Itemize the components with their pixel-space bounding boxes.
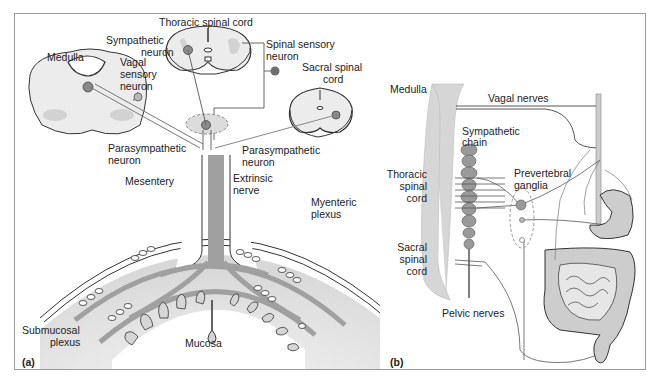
label-myenteric-plexus-2: plexus — [311, 209, 341, 220]
label-vagal-sensory-neuron: Vagal — [120, 57, 146, 68]
label-spinal-sensory-neuron-2: neuron — [266, 51, 299, 62]
label-vagal-nerves: Vagal nerves — [488, 93, 549, 104]
label-b-medulla: Medulla — [390, 84, 427, 95]
label-submucosal-plexus: Submucosal — [22, 325, 80, 336]
label-parasympathetic-neuron-right: Parasympathetic — [242, 145, 320, 156]
label-parasympathetic-neuron-right-2: neuron — [242, 157, 275, 168]
label-sacral-spinal-cord-b-2: spinal — [380, 254, 427, 265]
label-thoracic-spinal-cord: Thoracic spinal cord — [159, 17, 253, 28]
panel-b-tag: (b) — [390, 356, 403, 368]
label-parasympathetic-neuron-left: Parasympathetic — [108, 143, 186, 154]
label-sympathetic-neuron: Sympathetic — [106, 35, 164, 46]
label-vagal-sensory-neuron-2: sensory — [120, 69, 157, 80]
label-sacral-spinal-cord-2: cord — [323, 74, 343, 85]
label-parasympathetic-neuron-left-2: neuron — [108, 155, 141, 166]
label-submucosal-plexus-2: plexus — [50, 337, 80, 348]
label-thoracic-spinal-cord-b: Thoracic — [380, 169, 427, 180]
label-extrinsic-nerve-2: nerve — [233, 185, 259, 196]
label-prevertebral-ganglia: Prevertebral — [514, 168, 571, 179]
label-thoracic-spinal-cord-b-3: cord — [380, 193, 427, 204]
label-sacral-spinal-cord-b: Sacral — [380, 242, 427, 253]
panel-b-art — [421, 84, 635, 363]
label-pelvic-nerves: Pelvic nerves — [442, 308, 504, 319]
label-vagal-sensory-neuron-3: neuron — [120, 81, 153, 92]
label-myenteric-plexus: Myenteric — [311, 197, 357, 208]
label-thoracic-spinal-cord-b-2: spinal — [380, 181, 427, 192]
label-mucosa: Mucosa — [185, 338, 222, 349]
panel-a-tag: (a) — [22, 356, 35, 368]
label-prevertebral-ganglia-2: ganglia — [514, 180, 548, 191]
diagram-artwork — [0, 0, 657, 386]
label-sacral-spinal-cord-b-3: cord — [380, 266, 427, 277]
label-mesentery: Mesentery — [125, 176, 174, 187]
label-extrinsic-nerve: Extrinsic — [233, 173, 273, 184]
label-spinal-sensory-neuron: Spinal sensory — [266, 39, 335, 50]
label-sacral-spinal-cord: Sacral spinal — [302, 62, 362, 73]
label-medulla: Medulla — [47, 52, 84, 63]
label-sympathetic-chain-2: chain — [462, 137, 487, 148]
